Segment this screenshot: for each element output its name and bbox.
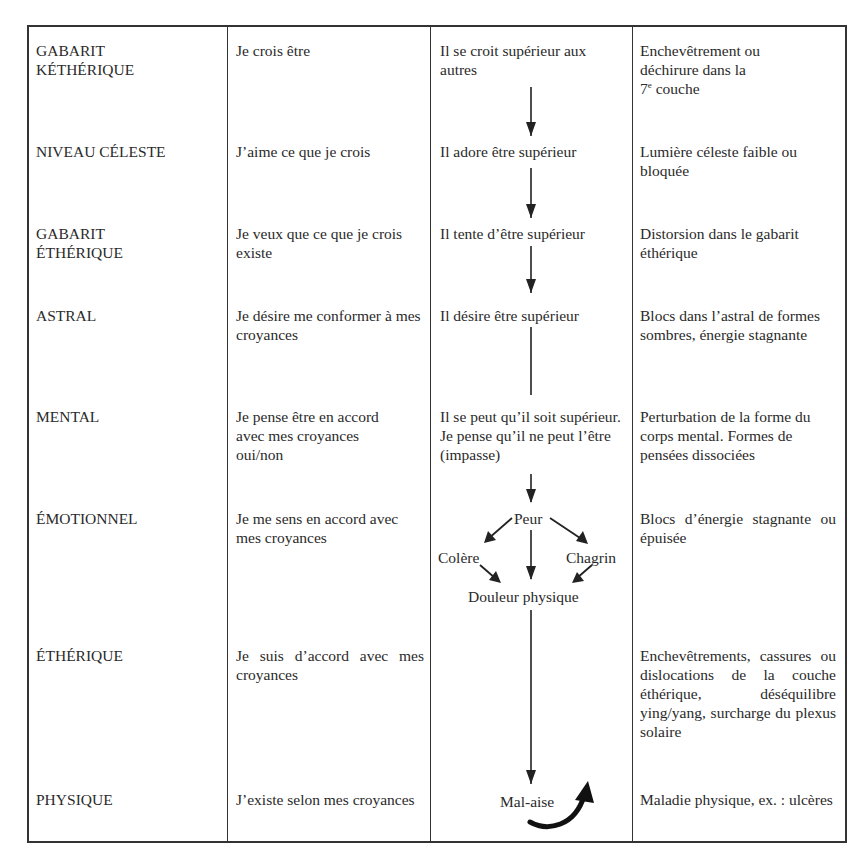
diagonal-arrow-icon: [550, 518, 588, 544]
diagonal-arrow-icon: [572, 565, 592, 583]
down-arrow-icon: [526, 168, 536, 218]
down-arrow-icon: [526, 246, 536, 293]
flow-arrows: [0, 0, 856, 868]
diagonal-arrow-icon: [480, 565, 501, 583]
down-arrow-icon: [526, 610, 536, 784]
down-arrow-icon: [526, 530, 536, 580]
diagonal-arrow-icon: [484, 518, 512, 543]
curved-up-arrow-icon: [530, 781, 594, 826]
down-arrow-icon: [526, 474, 536, 503]
down-arrow-icon: [526, 87, 536, 136]
